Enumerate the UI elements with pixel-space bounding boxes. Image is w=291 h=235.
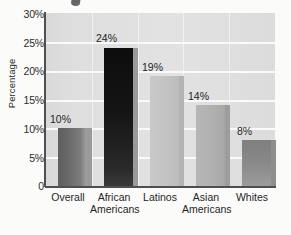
y-tick-5: 5% bbox=[2, 152, 44, 164]
y-axis-title: Percentage bbox=[6, 49, 17, 119]
x-tick-whites-line1: Whites bbox=[229, 191, 275, 203]
y-tick-30: 30% bbox=[2, 8, 44, 20]
y-tick-15: 15% bbox=[2, 94, 44, 106]
x-tick-asian-americans-line1: Asian bbox=[182, 191, 230, 203]
x-tick-latinos-line1: Latinos bbox=[137, 191, 183, 203]
x-tick-latinos: Latinos bbox=[137, 191, 183, 203]
bar-value-latinos: 19% bbox=[136, 61, 169, 73]
y-axis-line bbox=[44, 12, 46, 187]
x-tick-african-americans-line2: Americans bbox=[90, 203, 138, 215]
bar-overall bbox=[58, 128, 87, 186]
bar-value-whites: 8% bbox=[228, 125, 261, 137]
y-tick-0: 0 bbox=[2, 180, 44, 192]
y-tick-25: 25% bbox=[2, 37, 44, 49]
x-axis-line bbox=[45, 186, 276, 188]
y-axis-tick-labels: Percentage 30% 25% 20% 15% 10% 5% 0 bbox=[0, 0, 44, 235]
bar-african-americans bbox=[104, 48, 133, 186]
cropped-title-descender bbox=[71, 0, 81, 6]
bar-value-overall: 10% bbox=[44, 113, 77, 125]
x-tick-overall: Overall bbox=[45, 191, 91, 203]
bar-asian-americans bbox=[196, 105, 225, 186]
y-tick-10: 10% bbox=[2, 123, 44, 135]
gridline-25 bbox=[46, 42, 275, 44]
x-tick-african-americans: African Americans bbox=[90, 191, 138, 215]
x-tick-asian-americans-line2: Americans bbox=[182, 203, 230, 215]
x-tick-overall-line1: Overall bbox=[45, 191, 91, 203]
bar-value-asian-americans: 14% bbox=[182, 90, 215, 102]
bar-latinos bbox=[150, 76, 179, 186]
x-tick-asian-americans: Asian Americans bbox=[182, 191, 230, 215]
bar-chart-figure: Percentage 30% 25% 20% 15% 10% 5% 0 10% … bbox=[0, 0, 291, 235]
y-tick-20: 20% bbox=[2, 65, 44, 77]
x-tick-whites: Whites bbox=[229, 191, 275, 203]
plot-area bbox=[46, 13, 275, 186]
x-tick-african-americans-line1: African bbox=[90, 191, 138, 203]
bar-whites bbox=[242, 140, 271, 186]
bar-value-african-americans: 24% bbox=[90, 32, 123, 44]
